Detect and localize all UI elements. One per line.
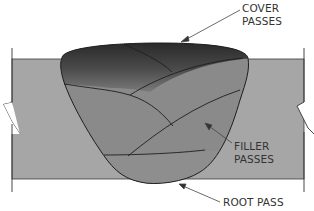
root-arrow-icon: [179, 184, 186, 189]
filler-passes-label: FILLER PASSES: [234, 140, 274, 166]
cover-arrow-icon: [181, 36, 189, 42]
root-label-line1: ROOT PASS: [223, 196, 284, 209]
cover-passes-label: COVER PASSES: [242, 2, 282, 28]
filler-label-line2: PASSES: [234, 153, 274, 166]
weld-diagram: [0, 0, 314, 211]
cover-leader: [185, 10, 240, 40]
root-leader: [183, 186, 220, 202]
cover-label-line1: COVER: [242, 2, 282, 15]
cover-label-line2: PASSES: [242, 15, 282, 28]
root-pass-label: ROOT PASS: [223, 196, 284, 209]
filler-label-line1: FILLER: [234, 140, 274, 153]
